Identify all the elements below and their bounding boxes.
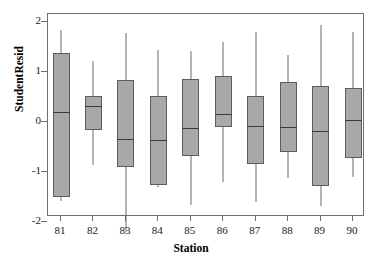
- x-axis-tick: [60, 216, 61, 221]
- box-rect: [117, 80, 134, 167]
- x-axis-tick: [92, 216, 93, 221]
- y-axis-title: StudentResid: [13, 19, 25, 139]
- x-axis-tick: [255, 216, 256, 221]
- median-line: [117, 139, 134, 140]
- median-line: [215, 114, 232, 115]
- plot-area: [48, 14, 363, 215]
- x-axis-tick: [287, 216, 288, 221]
- x-axis-title: Station: [0, 242, 382, 254]
- x-axis-tick-label: 82: [78, 224, 106, 236]
- x-axis-tick: [125, 216, 126, 221]
- x-axis-tick: [222, 216, 223, 221]
- median-line: [85, 106, 102, 107]
- median-line: [345, 120, 362, 121]
- median-line: [312, 131, 329, 132]
- x-axis-tick-label: 87: [241, 224, 269, 236]
- y-axis-tick-label: -2: [15, 215, 41, 226]
- x-axis-tick: [320, 216, 321, 221]
- y-axis-tick: [41, 121, 47, 122]
- box-rect: [53, 53, 70, 197]
- box-rect: [182, 79, 199, 156]
- x-axis-tick-label: 84: [143, 224, 171, 236]
- box-rect: [345, 88, 362, 158]
- x-axis-tick-label: 89: [306, 224, 334, 236]
- box-rect: [215, 76, 232, 128]
- y-axis-tick: [41, 171, 47, 172]
- median-line: [247, 126, 264, 127]
- box-rect: [85, 96, 102, 130]
- x-axis-tick-label: 83: [111, 224, 139, 236]
- boxplot-figure: 210-1-2 StudentResid 8182838485868788899…: [0, 0, 382, 266]
- x-axis-tick: [157, 216, 158, 221]
- median-line: [150, 140, 167, 141]
- y-axis-tick: [41, 221, 47, 222]
- x-axis-tick: [352, 216, 353, 221]
- median-line: [280, 127, 297, 128]
- y-axis-tick-label: -1: [15, 165, 41, 176]
- box-rect: [247, 96, 264, 164]
- y-axis-tick: [41, 21, 47, 22]
- box-rect: [280, 82, 297, 152]
- x-axis-tick-label: 81: [46, 224, 74, 236]
- x-axis-tick-label: 85: [176, 224, 204, 236]
- median-line: [53, 112, 70, 113]
- box-rect: [312, 86, 329, 186]
- plot-frame: [47, 13, 364, 216]
- y-axis-tick: [41, 71, 47, 72]
- x-axis-tick-label: 88: [273, 224, 301, 236]
- x-axis-tick-label: 90: [338, 224, 366, 236]
- median-line: [182, 128, 199, 129]
- x-axis-tick-label: 86: [208, 224, 236, 236]
- x-axis-tick: [190, 216, 191, 221]
